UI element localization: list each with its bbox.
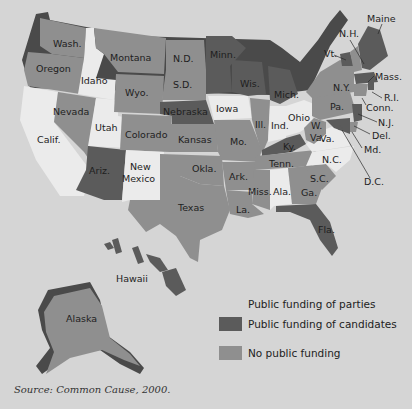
svg-text:Iowa: Iowa (216, 103, 238, 114)
svg-text:Kansas: Kansas (178, 134, 212, 145)
svg-text:Md.: Md. (364, 144, 381, 155)
svg-text:Mexico: Mexico (122, 173, 155, 184)
svg-text:Nevada: Nevada (53, 106, 89, 117)
svg-text:Mass.: Mass. (375, 71, 402, 82)
svg-text:N.Y.: N.Y. (333, 82, 350, 93)
state-nj (352, 104, 362, 122)
svg-text:Ala.: Ala. (273, 186, 291, 197)
svg-text:Vt.: Vt. (324, 48, 337, 59)
svg-text:Ind.: Ind. (271, 120, 289, 131)
svg-text:Maine: Maine (367, 13, 396, 24)
svg-text:S.C.: S.C. (310, 173, 329, 184)
svg-text:Mich.: Mich. (274, 89, 299, 100)
svg-text:N.C.: N.C. (322, 154, 342, 165)
legend-item-candidates: Public funding of candidates (219, 317, 397, 331)
svg-text:Nebraska: Nebraska (163, 106, 208, 117)
svg-text:Wash.: Wash. (53, 38, 82, 49)
state-alaska (36, 282, 144, 374)
svg-text:N.H.: N.H. (339, 28, 359, 39)
svg-text:Utah: Utah (95, 122, 118, 133)
svg-text:Ark.: Ark. (229, 171, 248, 182)
svg-text:Wis.: Wis. (240, 78, 260, 89)
svg-text:Texas: Texas (177, 202, 204, 213)
svg-text:Colorado: Colorado (125, 129, 168, 140)
svg-text:Idaho: Idaho (81, 75, 108, 86)
svg-text:Ariz.: Ariz. (89, 165, 110, 176)
svg-text:Okla.: Okla. (192, 163, 216, 174)
svg-text:W.: W. (311, 120, 322, 131)
svg-text:N.D.: N.D. (173, 53, 193, 64)
svg-text:Conn.: Conn. (366, 102, 394, 113)
legend-title: Public funding of parties (248, 298, 376, 310)
svg-text:Tenn.: Tenn. (268, 158, 294, 169)
state-hawaii (104, 238, 186, 296)
svg-text:Ga.: Ga. (301, 187, 317, 198)
us-map: Wash. Oregon Calif. Idaho Nevada Utah Ar… (0, 0, 412, 409)
svg-text:D.C.: D.C. (364, 176, 384, 187)
svg-text:Minn.: Minn. (210, 49, 236, 60)
state-conn (354, 84, 368, 96)
legend-label-none: No public funding (248, 347, 340, 359)
state-ri (368, 82, 374, 90)
svg-text:N.J.: N.J. (378, 117, 394, 128)
legend-swatch-candidates (219, 317, 242, 331)
svg-text:Montana: Montana (110, 52, 151, 63)
svg-text:New: New (130, 161, 151, 172)
state-del (350, 122, 358, 132)
svg-text:Hawaii: Hawaii (116, 273, 148, 284)
svg-text:Calif.: Calif. (37, 134, 60, 145)
svg-text:Del.: Del. (372, 130, 391, 141)
svg-text:Mo.: Mo. (230, 136, 247, 147)
legend-label-candidates: Public funding of candidates (248, 318, 397, 330)
svg-text:Miss.: Miss. (248, 186, 272, 197)
svg-text:Va.: Va. (310, 132, 325, 143)
svg-text:Oregon: Oregon (36, 63, 71, 74)
svg-text:Alaska: Alaska (66, 313, 97, 324)
state-dc (338, 126, 342, 130)
svg-text:Fla.: Fla. (318, 224, 335, 235)
svg-text:Pa.: Pa. (330, 101, 344, 112)
svg-text:Ill.: Ill. (255, 119, 266, 130)
svg-text:Wyo.: Wyo. (125, 87, 149, 98)
state-maine (358, 26, 388, 70)
svg-text:Ohio: Ohio (288, 112, 310, 123)
legend-item-none: No public funding (219, 346, 340, 360)
legend-swatch-none (219, 346, 242, 360)
svg-text:S.D.: S.D. (173, 79, 192, 90)
source-note: Source: Common Cause, 2000. (14, 384, 171, 395)
svg-text:La.: La. (236, 204, 250, 215)
svg-text:Ky.: Ky. (283, 141, 296, 152)
